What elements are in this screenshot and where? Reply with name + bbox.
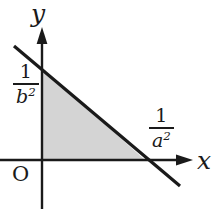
x-intercept-label: 1 a2 <box>149 106 174 150</box>
y-axis-arrow-icon <box>37 27 48 44</box>
y-intercept-denominator-exponent: 2 <box>28 84 36 98</box>
y-intercept-numerator: 1 <box>17 62 35 83</box>
math-figure: y x O 1 b2 1 a2 <box>0 0 220 209</box>
x-intercept-denominator-base: a <box>152 129 163 151</box>
x-intercept-denominator-exponent: 2 <box>163 128 171 142</box>
y-intercept-label: 1 b2 <box>13 62 39 106</box>
x-axis-arrow-icon <box>176 155 193 166</box>
y-intercept-denominator-base: b <box>16 85 28 107</box>
y-intercept-denominator: b2 <box>13 85 39 106</box>
origin-label: O <box>12 164 29 185</box>
x-axis-label: x <box>197 148 211 173</box>
x-intercept-numerator: 1 <box>152 106 170 127</box>
x-intercept-denominator: a2 <box>149 129 174 150</box>
y-axis-label: y <box>31 1 45 26</box>
